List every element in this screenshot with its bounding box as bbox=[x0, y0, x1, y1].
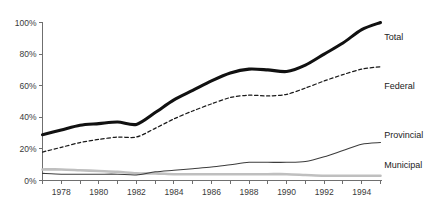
series-label-federal: Federal bbox=[384, 81, 415, 91]
x-axis-tick-label: 1994 bbox=[352, 187, 371, 197]
series-label-municipal: Municipal bbox=[384, 160, 422, 170]
x-axis-tick-label: 1982 bbox=[127, 187, 146, 197]
x-axis-tick-label: 1990 bbox=[277, 187, 296, 197]
y-axis-tick-label: 100% bbox=[15, 18, 37, 28]
y-axis-tick-label: 0% bbox=[24, 176, 37, 186]
y-axis-tick-label: 20% bbox=[19, 144, 36, 154]
line-chart: 0%20%40%60%80%100%1978198019821984198619… bbox=[0, 0, 427, 219]
series-label-provincial: Provincial bbox=[384, 130, 423, 140]
series-line-municipal bbox=[43, 169, 381, 175]
chart-canvas: 0%20%40%60%80%100%1978198019821984198619… bbox=[0, 0, 427, 219]
x-axis-tick-label: 1978 bbox=[52, 187, 71, 197]
y-axis-tick-label: 80% bbox=[19, 49, 36, 59]
x-axis-tick-label: 1988 bbox=[240, 187, 259, 197]
x-axis-tick-label: 1984 bbox=[164, 187, 183, 197]
y-axis-tick-label: 60% bbox=[19, 81, 36, 91]
series-label-total: Total bbox=[384, 32, 403, 42]
x-axis-tick-label: 1992 bbox=[315, 187, 334, 197]
x-axis-tick-label: 1980 bbox=[89, 187, 108, 197]
chart-axes bbox=[43, 22, 382, 181]
x-axis-tick-label: 1986 bbox=[202, 187, 221, 197]
y-axis-tick-label: 40% bbox=[19, 112, 36, 122]
